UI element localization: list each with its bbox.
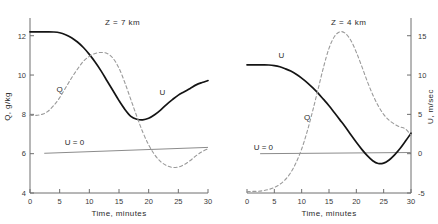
panel-0-x-ticklabel: 30 [204, 197, 212, 206]
panel-1-y-ticklabel: -5 [418, 189, 425, 198]
panel-0-annotation-Q: Q [57, 85, 63, 94]
panel-1-x-ticklabel: 15 [325, 197, 333, 206]
panel-1-annotation-Q: Q [304, 113, 310, 122]
panel-1-y-ticklabel: 10 [418, 71, 426, 80]
panel-0-annotation-U0: U = 0 [65, 138, 85, 147]
panel-0-x-ticklabel: 20 [144, 197, 152, 206]
panel-0-x-ticklabel: 10 [85, 197, 93, 206]
panel-1-series-Q [247, 32, 411, 192]
panel-1-title: Z = 4 km [331, 18, 366, 27]
panel-1-y-ticklabel: 15 [418, 32, 426, 41]
panel-0-x-ticklabel: 25 [174, 197, 182, 206]
panel-1-x-ticklabel: 20 [352, 197, 360, 206]
two-panel-line-chart: 4681012051015202530Time, minutesQ, g/kgZ… [0, 0, 438, 224]
panel-1-y-ticklabel: 5 [418, 110, 422, 119]
figure-container: 4681012051015202530Time, minutesQ, g/kgZ… [0, 0, 438, 224]
panel-1-x-ticklabel: 25 [379, 197, 387, 206]
panel-1-y-ticklabel: 0 [418, 149, 422, 158]
panel-1-zero-reference-line [260, 153, 411, 154]
panel-1-annotation-U0: U = 0 [254, 143, 274, 152]
panel-0-y-ticklabel: 4 [22, 189, 26, 198]
panel-1-x-ticklabel: 5 [272, 197, 276, 206]
panel-0-zero-reference-line [44, 147, 208, 153]
panel-0-title: Z = 7 km [105, 18, 140, 27]
panel-0-series-U [30, 32, 208, 120]
panel-1-y-axis-title: U, m/sec [426, 89, 435, 124]
panel-1-x-ticklabel: 0 [245, 197, 249, 206]
panel-0-y-ticklabel: 8 [22, 110, 26, 119]
panel-0-y-axis-title: Q, g/kg [3, 92, 12, 121]
panel-0-x-ticklabel: 15 [115, 197, 123, 206]
panel-1-annotation-U: U [279, 51, 285, 60]
panel-0-x-ticklabel: 0 [28, 197, 32, 206]
panel-1-x-axis-title: Time, minutes [301, 209, 356, 218]
panel-0-x-ticklabel: 5 [58, 197, 62, 206]
panel-0-y-ticklabel: 6 [22, 149, 26, 158]
panel-1-x-ticklabel: 10 [297, 197, 305, 206]
panel-0-annotation-U: U [159, 88, 165, 97]
panel-0-x-axis-title: Time, minutes [91, 209, 146, 218]
panel-0-y-ticklabel: 12 [18, 32, 26, 41]
panel-0-y-ticklabel: 10 [18, 71, 26, 80]
panel-1-x-ticklabel: 30 [407, 197, 415, 206]
